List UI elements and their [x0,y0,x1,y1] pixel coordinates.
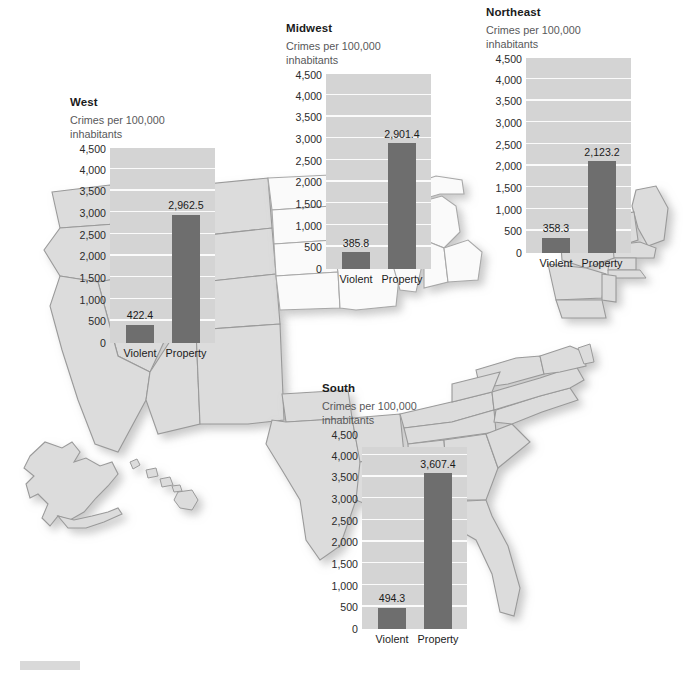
y-tick-label: 3,500 [295,111,322,123]
gridline [526,78,631,80]
bar-value-violent-south: 494.3 [379,592,406,604]
bar-property-west [172,215,200,343]
y-tick-label: 3,500 [331,471,358,483]
y-tick-label: 1,000 [79,294,106,306]
bar-violent-northeast [542,238,570,254]
y-tick-label: 500 [304,241,322,253]
x-label-violent-northeast: Violent [540,257,573,269]
y-tick-label: 4,500 [79,143,106,155]
y-tick-label: 0 [516,247,522,259]
y-tick-label: 1,000 [495,204,522,216]
bar-value-violent-west: 422.4 [127,309,154,321]
y-tick-label: 4,000 [79,164,106,176]
bar-property-midwest [388,143,416,269]
bar-violent-west [126,325,154,343]
y-tick-label: 2,000 [331,536,358,548]
x-label-violent-midwest: Violent [340,273,373,285]
y-tick-label: 1,500 [295,198,322,210]
x-label-violent-south: Violent [376,633,409,645]
y-tick-label: 0 [352,623,358,635]
y-axis-northeast: 0 500 1,000 1,500 2,000 2,500 3,000 3,50… [486,58,522,253]
y-tick-label: 2,000 [295,176,322,188]
bar-chart-south: 0 500 1,000 1,500 2,000 2,500 3,000 3,50… [322,434,482,649]
y-tick-label: 2,500 [79,229,106,241]
gridline [110,211,215,213]
gridline [326,94,431,96]
bar-property-south [424,473,452,629]
panel-subtitle-west: Crimes per 100,000 inhabitants [70,114,230,141]
y-tick-label: 3,500 [79,185,106,197]
y-tick-label: 2,500 [295,155,322,167]
x-label-property-northeast: Property [582,257,623,269]
y-tick-label: 4,000 [295,90,322,102]
y-tick-label: 1,500 [79,272,106,284]
y-tick-label: 1,000 [295,220,322,232]
bar-violent-south [378,608,406,629]
y-tick-label: 2,000 [79,250,106,262]
bar-value-property-northeast: 2,123.2 [584,146,619,158]
panel-subtitle-northeast: Crimes per 100,000 inhabitants [486,24,646,51]
y-tick-label: 1,000 [331,580,358,592]
bar-value-property-south: 3,607.4 [420,458,455,470]
footer-marker-bar [20,661,80,670]
y-tick-label: 4,500 [495,53,522,65]
y-tick-label: 0 [316,263,322,275]
gridline [362,454,467,456]
y-tick-label: 3,000 [295,133,322,145]
panel-subtitle-midwest: Crimes per 100,000 inhabitants [286,40,446,67]
bar-value-property-west: 2,962.5 [168,199,203,211]
y-axis-midwest: 0 500 1,000 1,500 2,000 2,500 3,000 3,50… [286,74,322,269]
bar-chart-west: 0 500 1,000 1,500 2,000 2,500 3,000 3,50… [70,148,230,363]
panel-title-south: South [322,382,482,394]
chart-panel-midwest: Midwest Crimes per 100,000 inhabitants 0… [286,22,446,289]
y-tick-label: 1,500 [331,558,358,570]
y-tick-label: 4,500 [331,429,358,441]
gridline [526,99,631,101]
y-tick-label: 4,500 [295,69,322,81]
gridline [326,115,431,117]
chart-panel-south: South Crimes per 100,000 inhabitants 0 5… [322,382,482,649]
bar-value-violent-midwest: 385.8 [343,237,370,249]
y-tick-label: 500 [340,601,358,613]
y-tick-label: 500 [504,225,522,237]
y-tick-label: 0 [100,337,106,349]
gridline [110,189,215,191]
y-tick-label: 2,000 [495,160,522,172]
y-tick-label: 3,000 [79,207,106,219]
gridline [526,143,631,145]
x-label-property-south: Property [418,633,459,645]
panel-title-west: West [70,96,230,108]
bar-value-violent-northeast: 358.3 [543,222,570,234]
panel-title-northeast: Northeast [486,6,646,18]
y-tick-label: 1,500 [495,182,522,194]
gridline [526,121,631,123]
y-axis-west: 0 500 1,000 1,500 2,000 2,500 3,000 3,50… [70,148,106,343]
chart-panel-northeast: Northeast Crimes per 100,000 inhabitants… [486,6,646,273]
x-label-violent-west: Violent [124,347,157,359]
x-label-property-midwest: Property [382,273,423,285]
y-tick-label: 4,000 [495,74,522,86]
y-tick-label: 2,500 [495,139,522,151]
bar-chart-northeast: 0 500 1,000 1,500 2,000 2,500 3,000 3,50… [486,58,646,273]
y-tick-label: 3,000 [331,493,358,505]
figure-canvas: West Crimes per 100,000 inhabitants 0 50… [0,0,698,681]
panel-subtitle-south: Crimes per 100,000 inhabitants [322,400,482,427]
bar-value-property-midwest: 2,901.4 [384,128,419,140]
gridline [110,168,215,170]
y-axis-south: 0 500 1,000 1,500 2,000 2,500 3,000 3,50… [322,434,358,629]
x-label-property-west: Property [166,347,207,359]
bar-property-northeast [588,161,616,253]
y-tick-label: 3,500 [495,95,522,107]
y-tick-label: 2,500 [331,515,358,527]
y-tick-label: 4,000 [331,450,358,462]
bar-chart-midwest: 0 500 1,000 1,500 2,000 2,500 3,000 3,50… [286,74,446,289]
y-tick-label: 3,000 [495,117,522,129]
y-tick-label: 500 [88,315,106,327]
chart-panel-west: West Crimes per 100,000 inhabitants 0 50… [70,96,230,363]
bar-violent-midwest [342,252,370,269]
panel-title-midwest: Midwest [286,22,446,34]
